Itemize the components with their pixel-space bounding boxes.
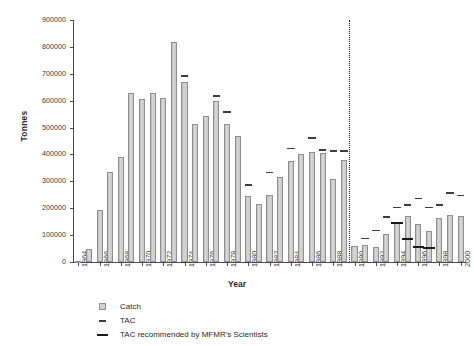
x-tick-mark xyxy=(270,263,271,266)
tac-marker xyxy=(308,137,316,139)
bar-catch xyxy=(75,261,81,263)
y-axis-title: Tonnes xyxy=(19,86,29,166)
bar-catch xyxy=(266,195,272,262)
x-tick-mark xyxy=(461,263,462,266)
tac-marker xyxy=(287,148,295,150)
legend-item-label: Catch xyxy=(120,302,141,311)
tac-marker xyxy=(361,238,369,240)
y-tick-mark xyxy=(70,262,73,263)
x-tick-mark xyxy=(291,263,292,266)
tac-marker xyxy=(393,207,401,209)
y-tick-mark xyxy=(70,181,73,182)
x-tick-mark xyxy=(312,263,313,266)
y-tick-mark xyxy=(70,154,73,155)
bar-catch xyxy=(171,42,177,263)
tac-marker xyxy=(383,216,391,218)
bar-catch xyxy=(436,218,442,262)
tac-marker xyxy=(223,111,231,113)
bar-catch xyxy=(447,215,453,262)
tac-recommended-marker xyxy=(402,238,414,240)
y-tick-label: 100000 xyxy=(18,231,66,238)
square-swatch-icon xyxy=(99,303,106,310)
bar-catch xyxy=(118,157,124,262)
tac-marker xyxy=(245,184,253,186)
tac-marker xyxy=(340,150,348,152)
bar-catch xyxy=(213,101,219,262)
independence-divider-line xyxy=(349,20,350,262)
bar-catch xyxy=(150,93,156,262)
tac-marker xyxy=(266,172,274,174)
x-tick-label: 2000 xyxy=(464,251,471,267)
x-tick-mark xyxy=(100,263,101,266)
bar-catch xyxy=(362,245,368,263)
x-tick-mark xyxy=(397,263,398,266)
bar-catch xyxy=(341,160,347,262)
bar-catch xyxy=(373,247,379,262)
x-tick-mark xyxy=(142,263,143,266)
bar-catch xyxy=(288,161,294,262)
tac-recommended-marker xyxy=(391,222,403,224)
tac-marker xyxy=(436,204,444,206)
bar-catch xyxy=(97,210,103,262)
x-tick-mark xyxy=(185,263,186,266)
bar-catch xyxy=(277,177,283,262)
y-tick-label: 300000 xyxy=(18,177,66,184)
bar-catch xyxy=(235,136,241,262)
chart-figure: 0100000200000300000400000500000600000700… xyxy=(0,0,474,346)
x-tick-mark xyxy=(355,263,356,266)
bar-catch xyxy=(394,223,400,262)
y-tick-mark xyxy=(70,47,73,48)
legend-item-label: TAC xyxy=(120,316,135,325)
bar-catch xyxy=(383,234,389,262)
y-axis-line xyxy=(73,20,74,263)
bar-catch xyxy=(86,249,92,262)
tac-recommended-marker xyxy=(423,247,435,249)
long-dash-icon xyxy=(97,334,108,336)
tac-marker xyxy=(446,192,454,194)
bar-catch xyxy=(320,153,326,262)
bar-catch xyxy=(203,116,209,263)
tac-marker xyxy=(425,207,433,209)
bar-catch xyxy=(309,152,315,262)
x-tick-mark xyxy=(376,263,377,266)
y-tick-mark xyxy=(70,74,73,75)
y-tick-mark xyxy=(70,20,73,21)
x-tick-mark xyxy=(227,263,228,266)
bar-catch xyxy=(351,246,357,262)
tac-marker xyxy=(404,204,412,206)
tac-marker xyxy=(330,150,338,152)
y-tick-mark xyxy=(70,235,73,236)
x-tick-mark xyxy=(206,263,207,266)
x-tick-mark xyxy=(121,263,122,266)
tac-marker xyxy=(181,75,189,77)
y-tick-label: 0 xyxy=(18,258,66,265)
bar-catch xyxy=(107,172,113,262)
y-tick-mark xyxy=(70,128,73,129)
tac-marker xyxy=(372,230,380,232)
tac-marker xyxy=(319,149,327,151)
bar-catch xyxy=(181,82,187,262)
bar-catch xyxy=(160,98,166,262)
tac-marker xyxy=(457,195,465,197)
short-dash-icon xyxy=(99,320,106,322)
bar-catch xyxy=(415,224,421,262)
bar-catch xyxy=(256,204,262,262)
bar-catch xyxy=(192,124,198,263)
y-tick-label: 800000 xyxy=(18,43,66,50)
bar-catch xyxy=(245,196,251,262)
bar-catch xyxy=(139,99,145,262)
y-tick-mark xyxy=(70,101,73,102)
x-axis-title: Year xyxy=(228,279,246,289)
y-tick-label: 700000 xyxy=(18,70,66,77)
y-tick-mark xyxy=(70,208,73,209)
y-tick-label: 200000 xyxy=(18,204,66,211)
tac-marker xyxy=(213,95,221,97)
legend-item-label: TAC recommended by MFMR's Scientists xyxy=(120,330,268,339)
tac-marker xyxy=(415,198,423,200)
bar-catch xyxy=(128,93,134,262)
bar-catch xyxy=(298,154,304,262)
bar-catch xyxy=(330,179,336,262)
bar-catch xyxy=(224,124,230,263)
y-tick-label: 900000 xyxy=(18,16,66,23)
bar-catch xyxy=(458,216,464,262)
